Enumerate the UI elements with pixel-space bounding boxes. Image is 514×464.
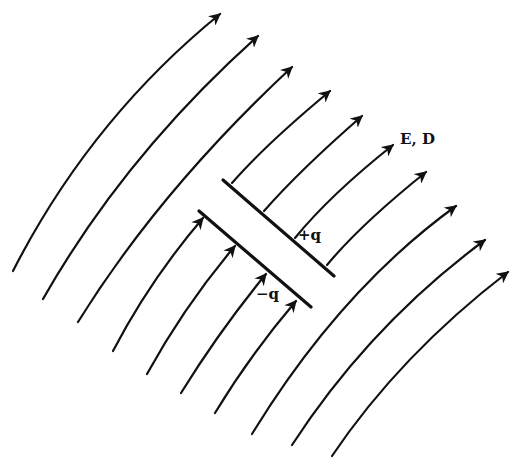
negative-plate: [199, 211, 311, 307]
field-line: [252, 206, 456, 434]
field-line: [113, 218, 203, 351]
field-line: [264, 116, 362, 211]
field-line: [332, 272, 508, 456]
field-line: [215, 301, 296, 413]
field-line: [147, 246, 235, 374]
positive-plate-label: +q: [298, 226, 321, 244]
negative-plate-label: −q: [256, 285, 279, 303]
field-line: [327, 172, 426, 265]
field-lines-svg: [0, 0, 514, 464]
field-line: [292, 240, 485, 445]
field-label: E, D: [400, 130, 435, 148]
capacitor-field-diagram: E, D +q −q: [0, 0, 514, 464]
field-line: [13, 14, 220, 271]
field-line: [78, 67, 292, 322]
field-line: [181, 274, 266, 393]
field-line: [232, 91, 330, 183]
field-line: [295, 145, 393, 238]
